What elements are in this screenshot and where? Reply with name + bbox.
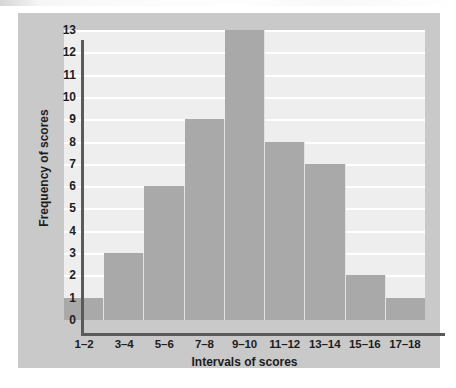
bar-11-12 xyxy=(265,142,305,320)
y-tick-label: 4 xyxy=(50,225,76,237)
y-tick-label: 8 xyxy=(50,136,76,148)
bar-5-6 xyxy=(144,186,184,320)
x-tick-label: 9–10 xyxy=(224,338,264,350)
x-axis-line xyxy=(81,333,445,336)
y-tick-label: 7 xyxy=(50,158,76,170)
bar-7-8 xyxy=(185,119,225,320)
bar-series xyxy=(64,30,425,320)
y-axis-title: Frequency of scores xyxy=(37,88,51,248)
y-axis-line xyxy=(81,40,84,336)
bar-9-10 xyxy=(225,30,265,320)
y-tick-label: 5 xyxy=(50,202,76,214)
bar-15-16 xyxy=(346,275,386,320)
scan-artifact-streak xyxy=(0,0,456,6)
x-axis-title: Intervals of scores xyxy=(64,355,425,369)
y-tick-label: 2 xyxy=(50,269,76,281)
bar-13-14 xyxy=(305,164,345,320)
y-tick-label: 13 xyxy=(50,24,76,36)
x-tick-label: 17–18 xyxy=(385,338,425,350)
x-tick-label: 13–14 xyxy=(305,338,345,350)
x-axis-tick-labels: 1–23–45–67–89–1011–1213–1415–1617–18 xyxy=(64,338,425,350)
x-tick-label: 5–6 xyxy=(144,338,184,350)
bar-3-4 xyxy=(104,253,144,320)
x-tick-label: 1–2 xyxy=(64,338,104,350)
y-tick-label: 11 xyxy=(50,69,76,81)
y-tick-label: 12 xyxy=(50,46,76,58)
plot-area xyxy=(64,30,425,320)
y-tick-label: 10 xyxy=(50,91,76,103)
y-tick-label: 9 xyxy=(50,113,76,125)
y-tick-label: 6 xyxy=(50,180,76,192)
bar-17-18 xyxy=(386,298,425,320)
y-tick-label: 0 xyxy=(50,314,76,326)
x-tick-label: 3–4 xyxy=(104,338,144,350)
x-tick-label: 11–12 xyxy=(265,338,305,350)
figure-card: 131211109876543210 1–23–45–67–89–1011–12… xyxy=(18,13,440,368)
x-tick-label: 15–16 xyxy=(345,338,385,350)
y-tick-label: 3 xyxy=(50,247,76,259)
x-tick-label: 7–8 xyxy=(184,338,224,350)
y-tick-label: 1 xyxy=(50,292,76,304)
